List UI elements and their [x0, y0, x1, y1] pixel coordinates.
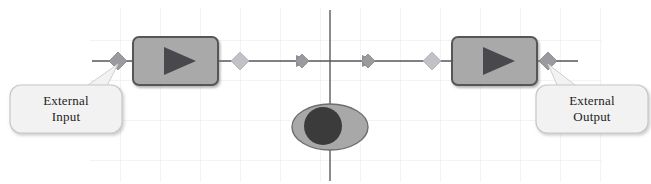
- callout-external-input-label: External Input: [14, 93, 118, 125]
- callout-external-output-label: External Output: [540, 93, 644, 125]
- callout-output-line1: External: [540, 93, 644, 109]
- amplifier-block-left[interactable]: [133, 37, 218, 85]
- eye-iris: [304, 107, 342, 145]
- callout-output-line2: Output: [540, 109, 644, 125]
- observer-eye-icon[interactable]: [292, 104, 368, 150]
- diagram-canvas: External Input External Output: [0, 0, 651, 184]
- callout-input-line1: External: [14, 93, 118, 109]
- callout-input-line2: Input: [14, 109, 118, 125]
- background-grid: [90, 8, 602, 182]
- diagram-figure: [0, 0, 651, 184]
- amplifier-block-right[interactable]: [452, 37, 537, 85]
